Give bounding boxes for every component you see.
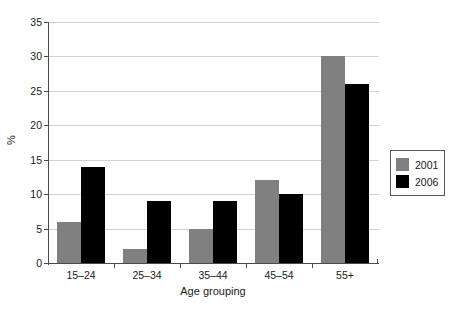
bar-2001-45–54 <box>255 180 279 263</box>
y-tick-mark <box>44 263 48 264</box>
x-tick-label: 15–24 <box>66 269 95 281</box>
y-tick-label: 15 <box>30 154 42 166</box>
y-axis-title: % <box>2 131 20 149</box>
x-tick-mark <box>246 264 247 268</box>
x-tick-label: 55+ <box>336 269 354 281</box>
x-axis-end-cap <box>377 259 378 264</box>
bar-2001-55+ <box>321 56 345 263</box>
legend-item-2001: 2001 <box>396 156 438 173</box>
bar-2001-15–24 <box>57 222 81 263</box>
x-tick-label: 25–34 <box>132 269 161 281</box>
y-tick-label: 30 <box>30 50 42 62</box>
y-tick-label: 5 <box>36 223 42 235</box>
y-tick-mark <box>44 160 48 161</box>
y-tick-mark <box>44 22 48 23</box>
x-axis-title: Age grouping <box>48 285 378 297</box>
legend-item-2006: 2006 <box>396 173 438 190</box>
bar-2001-25–34 <box>123 249 147 263</box>
legend: 20012006 <box>390 150 445 196</box>
y-tick-label: 35 <box>30 16 42 28</box>
x-tick-mark <box>312 264 313 268</box>
x-tick-mark <box>180 264 181 268</box>
legend-label-2001: 2001 <box>415 159 438 171</box>
x-axis-line <box>48 263 379 264</box>
y-tick-label: 0 <box>36 257 42 269</box>
y-tick-mark <box>44 91 48 92</box>
bar-2006-25–34 <box>147 201 171 263</box>
y-tick-label: 20 <box>30 119 42 131</box>
x-tick-label: 35–44 <box>198 269 227 281</box>
bar-2006-15–24 <box>81 167 105 263</box>
legend-label-2006: 2006 <box>415 176 438 188</box>
legend-swatch-2006 <box>396 175 409 188</box>
bar-2006-45–54 <box>279 194 303 263</box>
bar-2006-55+ <box>345 84 369 263</box>
gridline <box>49 22 379 23</box>
plot-area: 05101520253035 15–2425–3435–4445–5455+ <box>48 22 378 264</box>
bar-2001-35–44 <box>189 229 213 263</box>
y-tick-label: 25 <box>30 85 42 97</box>
bar-chart: % 05101520253035 15–2425–3435–4445–5455+… <box>0 0 451 309</box>
y-tick-mark <box>44 56 48 57</box>
x-tick-mark <box>114 264 115 268</box>
y-tick-mark <box>44 194 48 195</box>
y-tick-mark <box>44 125 48 126</box>
y-tick-mark <box>44 229 48 230</box>
y-tick-label: 10 <box>30 188 42 200</box>
legend-swatch-2001 <box>396 158 409 171</box>
x-tick-label: 45–54 <box>264 269 293 281</box>
bar-2006-35–44 <box>213 201 237 263</box>
